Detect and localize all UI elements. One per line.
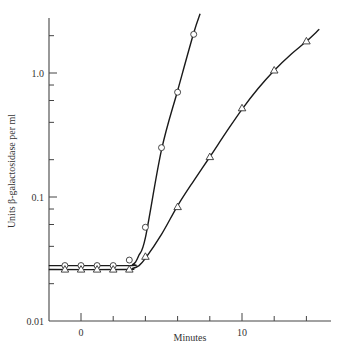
circle-data-point	[175, 89, 181, 95]
tick-labels: 0100.010.11.0	[27, 68, 248, 339]
x-tick-label: 10	[237, 327, 247, 338]
y-axis-label: Units β-galactosidase per ml	[6, 114, 17, 228]
circle-data-point	[191, 31, 197, 37]
markers	[61, 31, 310, 272]
triangle-data-point	[174, 203, 182, 210]
chart: 0100.010.11.0 Minutes Units β-galactosid…	[0, 0, 348, 354]
circles-fit-curve	[49, 14, 200, 266]
circle-data-point	[126, 257, 132, 263]
circle-data-point	[142, 224, 148, 230]
y-tick-label: 0.01	[27, 316, 45, 327]
axes	[49, 18, 331, 321]
y-tick-label: 0.1	[32, 192, 45, 203]
x-axis-label: Minutes	[174, 332, 207, 343]
curves	[49, 14, 320, 270]
x-tick-label: 0	[79, 327, 84, 338]
y-tick-label: 1.0	[32, 68, 45, 79]
ticks	[49, 36, 306, 321]
circle-data-point	[159, 145, 165, 151]
